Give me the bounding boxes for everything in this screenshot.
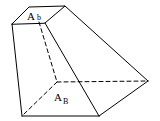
- frustum-diagram: [0, 0, 160, 121]
- label-bottom-a: A: [54, 92, 62, 103]
- label-top-b: b: [37, 14, 41, 22]
- edge-left: [12, 24, 22, 116]
- hidden-edge-back-right: [57, 81, 148, 82]
- label-bottom-b: B: [63, 98, 68, 106]
- hidden-edge-back-vertical: [39, 22, 57, 82]
- edge-right-top: [65, 6, 148, 81]
- label-top-a: A: [27, 11, 35, 22]
- hidden-edge-back-left: [22, 82, 57, 116]
- edge-bottom-right: [99, 81, 148, 116]
